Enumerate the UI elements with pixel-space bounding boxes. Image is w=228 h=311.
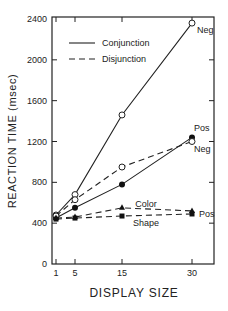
y-tick-label: 2400: [27, 14, 47, 24]
y-tick-label: 0: [42, 259, 47, 269]
legend-label: Disjunction: [102, 54, 146, 64]
series-end-label: Pos: [194, 123, 210, 133]
series-conjunction-neg: [53, 20, 195, 218]
series-end-label: Neg: [194, 144, 211, 154]
series-shape-pos: [54, 211, 195, 221]
filled-triangle-marker: [119, 204, 125, 210]
filled-circle-marker: [72, 205, 78, 211]
open-circle-marker: [189, 20, 195, 26]
filled-square-marker: [54, 217, 59, 222]
filled-square-marker: [73, 216, 78, 221]
y-tick-label: 400: [32, 218, 47, 228]
open-circle-marker: [72, 197, 78, 203]
x-axis-label: DISPLAY SIZE: [89, 286, 178, 300]
filled-circle-marker: [119, 181, 125, 187]
series-end-label: Pos: [199, 209, 215, 219]
x-tick-label: 5: [72, 268, 77, 278]
x-tick-label: 30: [187, 268, 197, 278]
y-tick-label: 2000: [27, 55, 47, 65]
color-annotation: Color: [135, 199, 157, 209]
legend-label: Conjunction: [102, 38, 150, 48]
reaction-time-chart: 04008001200160020002400 151530 NegPosNeg…: [0, 0, 228, 311]
filled-square-marker: [190, 211, 195, 216]
y-tick-label: 800: [32, 177, 47, 187]
filled-square-marker: [120, 214, 125, 219]
data-series: NegPosNegPosColorShape: [53, 20, 215, 228]
shape-annotation: Shape: [133, 218, 159, 228]
y-tick-label: 1600: [27, 96, 47, 106]
x-tick-label: 1: [53, 268, 58, 278]
legend: ConjunctionDisjunction: [69, 38, 150, 64]
series-line: [56, 142, 192, 217]
open-circle-marker: [119, 164, 125, 170]
x-tick-label: 15: [117, 268, 127, 278]
y-tick-label: 1200: [27, 137, 47, 147]
open-circle-marker: [119, 112, 125, 118]
y-axis-label: REACTION TIME (msec): [6, 74, 18, 209]
series-end-label: Neg: [197, 25, 214, 35]
